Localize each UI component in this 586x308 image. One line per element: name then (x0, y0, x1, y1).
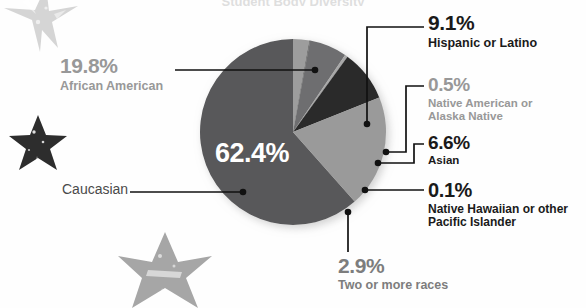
leader-dot-two-or-more (345, 209, 352, 216)
native-hawaiian-name: Native Hawaiian or other Pacific Islande… (428, 203, 578, 230)
slice-label-native-american: 0.5% Native American or Alaska Native (428, 75, 568, 123)
asian-percent: 6.6% (428, 133, 470, 152)
leader-dot-caucasian (240, 189, 247, 196)
slice-label-caucasian-center: 62.4% (215, 138, 289, 169)
african-american-percent: 19.8% (60, 55, 163, 76)
slice-label-asian: 6.6% Asian (428, 133, 470, 167)
caucasian-name: Caucasian (62, 182, 128, 198)
pie-slices (200, 39, 386, 225)
native-american-name: Native American or Alaska Native (428, 97, 568, 123)
slice-label-hispanic: 9.1% Hispanic or Latino (428, 12, 537, 50)
slice-label-caucasian: Caucasian (62, 182, 128, 198)
leader-dot-african-american (312, 67, 319, 74)
native-hawaiian-percent: 0.1% (428, 180, 578, 200)
leader-dot-hispanic (364, 121, 371, 128)
two-or-more-name: Two or more races (338, 278, 448, 292)
asian-name: Asian (428, 154, 470, 167)
leader-dot-native-american (383, 149, 390, 156)
hispanic-name: Hispanic or Latino (428, 36, 537, 50)
infographic-canvas: Student Body Diversity (0, 0, 586, 308)
slice-label-african-american: 19.8% African American (60, 55, 163, 93)
leader-dot-native-hawaiian (362, 187, 369, 194)
slice-label-two-or-more: 2.9% Two or more races (338, 255, 448, 292)
african-american-name: African American (60, 79, 163, 93)
hispanic-percent: 9.1% (428, 12, 537, 33)
slice-label-native-hawaiian: 0.1% Native Hawaiian or other Pacific Is… (428, 180, 578, 230)
leader-native-american (386, 86, 424, 152)
native-american-percent: 0.5% (428, 75, 568, 94)
leader-dot-asian (375, 160, 382, 167)
two-or-more-percent: 2.9% (338, 255, 448, 276)
